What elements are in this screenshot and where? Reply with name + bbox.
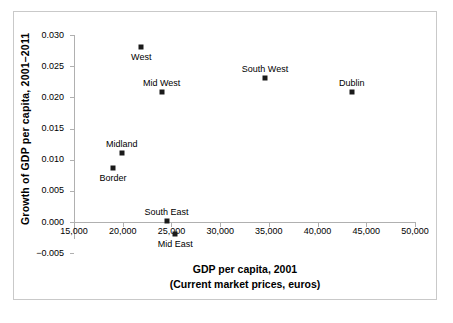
data-point-label: South West xyxy=(242,64,288,74)
y-tick-mark xyxy=(70,129,74,130)
y-tick-label: 0.010 xyxy=(0,155,70,164)
y-tick-label: 0.020 xyxy=(0,93,70,102)
x-tick-label: 20,000 xyxy=(109,227,137,236)
data-point-marker[interactable] xyxy=(159,90,164,95)
data-point-label: West xyxy=(131,52,151,62)
data-point-marker[interactable] xyxy=(119,150,124,155)
data-point-marker[interactable] xyxy=(173,232,178,237)
data-point-label: Mid West xyxy=(143,78,180,88)
x-tick-label: 35,000 xyxy=(255,227,283,236)
data-point-marker[interactable] xyxy=(164,219,169,224)
y-tick-label: 0.005 xyxy=(0,186,70,195)
x-tick-label: 15,000 xyxy=(60,227,88,236)
data-point-label: South East xyxy=(145,207,189,217)
y-tick-mark xyxy=(70,97,74,98)
y-tick-mark xyxy=(70,66,74,67)
x-tick-label: 45,000 xyxy=(353,227,381,236)
y-tick-mark xyxy=(70,160,74,161)
x-axis-title: GDP per capita, 2001 (Current market pri… xyxy=(74,262,416,292)
y-tick-label: 0.030 xyxy=(0,31,70,40)
x-axis-line xyxy=(74,222,416,223)
x-tick-label: 40,000 xyxy=(304,227,332,236)
y-tick-label: 0.025 xyxy=(0,62,70,71)
data-point-label: Border xyxy=(99,173,126,183)
y-tick-mark xyxy=(70,35,74,36)
data-point-label: Dublin xyxy=(339,78,365,88)
x-axis-title-line1: GDP per capita, 2001 xyxy=(74,262,416,277)
y-tick-mark xyxy=(70,191,74,192)
data-point-label: Midland xyxy=(106,139,138,149)
x-tick-label: 50,000 xyxy=(401,227,429,236)
data-point-marker[interactable] xyxy=(262,76,267,81)
x-axis-title-line2: (Current market prices, euros) xyxy=(74,277,416,292)
x-tick-label: 25,000 xyxy=(158,227,186,236)
data-point-label: Mid East xyxy=(158,239,193,249)
x-tick-label: 30,000 xyxy=(206,227,234,236)
scatter-chart-figure: Growth of GDP per capita, 2001–2011 GDP … xyxy=(0,0,453,323)
chart-outer-frame xyxy=(13,11,437,300)
y-tick-mark xyxy=(70,253,74,254)
data-point-marker[interactable] xyxy=(110,165,115,170)
y-tick-label: −0.005 xyxy=(0,249,70,258)
data-point-marker[interactable] xyxy=(349,90,354,95)
data-point-marker[interactable] xyxy=(139,45,144,50)
y-tick-label: 0.015 xyxy=(0,124,70,133)
y-axis-line xyxy=(74,35,75,239)
